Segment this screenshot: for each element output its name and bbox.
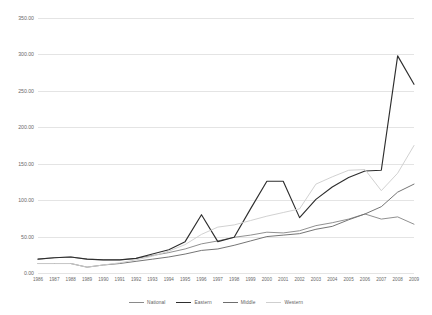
legend-swatch-icon xyxy=(266,302,281,303)
legend-item-eastern[interactable]: Eastern xyxy=(176,300,211,305)
x-axis-tick-label: 2005 xyxy=(343,277,353,282)
x-axis-tick-label: 2008 xyxy=(393,277,403,282)
x-axis-tick-label: 2004 xyxy=(327,277,337,282)
x-axis-tick-label: 1992 xyxy=(131,277,141,282)
legend-label: Western xyxy=(284,300,302,305)
x-axis-tick-label: 1993 xyxy=(147,277,157,282)
legend-item-western[interactable]: Western xyxy=(266,300,302,305)
legend-swatch-icon xyxy=(176,302,191,303)
x-axis-tick-label: 2006 xyxy=(360,277,370,282)
series-line-national xyxy=(38,214,414,260)
x-axis-tick-label: 1999 xyxy=(245,277,255,282)
line-chart: 0.0050.00100.00150.00200.00250.00300.003… xyxy=(0,0,432,315)
x-axis-tick-label: 2009 xyxy=(409,277,419,282)
series-lines xyxy=(0,0,432,315)
series-line-western xyxy=(38,146,414,268)
x-axis-tick-label: 2000 xyxy=(262,277,272,282)
x-axis-tick-label: 1988 xyxy=(66,277,76,282)
x-axis-tick-label: 1989 xyxy=(82,277,92,282)
legend-label: National xyxy=(147,300,165,305)
x-axis-tick-label: 2003 xyxy=(311,277,321,282)
legend-item-middle[interactable]: Middle xyxy=(223,300,256,305)
x-axis-tick-label: 2001 xyxy=(278,277,288,282)
legend-label: Eastern xyxy=(194,300,211,305)
x-axis-tick-label: 1990 xyxy=(98,277,108,282)
x-axis-labels: 1986198719881989199019911992199319941995… xyxy=(0,277,432,289)
x-axis-tick-label: 1994 xyxy=(164,277,174,282)
x-axis-tick-label: 1995 xyxy=(180,277,190,282)
x-axis-tick-label: 1997 xyxy=(213,277,223,282)
x-axis-tick-label: 1996 xyxy=(196,277,206,282)
series-line-eastern xyxy=(38,56,414,260)
legend-swatch-icon xyxy=(223,302,238,303)
x-axis-tick-label: 2007 xyxy=(376,277,386,282)
x-axis-tick-label: 2002 xyxy=(294,277,304,282)
x-axis-tick-label: 1998 xyxy=(229,277,239,282)
legend-label: Middle xyxy=(241,300,256,305)
x-axis-tick-label: 1986 xyxy=(33,277,43,282)
x-axis-tick-label: 1987 xyxy=(49,277,59,282)
chart-legend: NationalEasternMiddleWestern xyxy=(0,295,432,309)
legend-swatch-icon xyxy=(129,302,144,303)
legend-item-national[interactable]: National xyxy=(129,300,165,305)
x-axis-tick-label: 1991 xyxy=(115,277,125,282)
